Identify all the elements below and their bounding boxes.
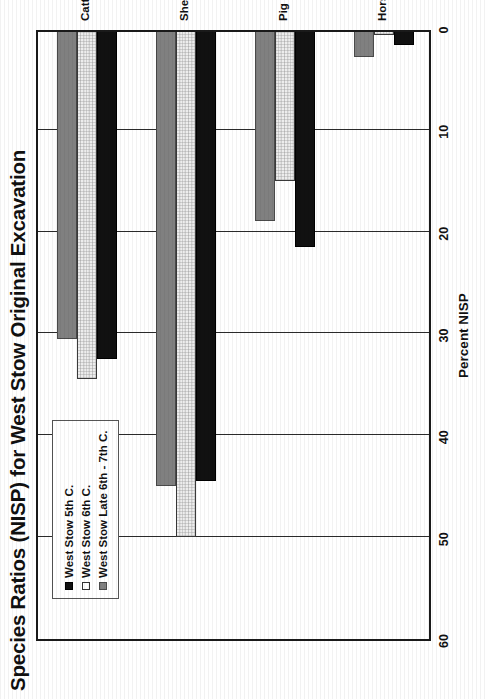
category-label: Horse [376, 0, 388, 21]
tick-label: 40 [437, 430, 451, 444]
tick-label: 0 [437, 27, 451, 34]
chart-legend: West Stow 5th C.West Stow 6th C.West Sto… [52, 420, 119, 599]
bar [275, 30, 295, 181]
category-label: Cattle [79, 0, 91, 21]
bar [394, 30, 414, 45]
outline-white-square-icon [82, 582, 90, 590]
legend-item-label: West Stow 6th C. [80, 485, 92, 578]
bar-group [236, 32, 335, 639]
tick-label: 60 [437, 634, 451, 648]
scanned-page-rotation-wrapper: Species Ratios (NISP) for West Stow Orig… [0, 0, 485, 699]
tick-label: 20 [437, 227, 451, 241]
tick-label: 30 [437, 329, 451, 343]
bar [295, 30, 315, 247]
bar [196, 30, 216, 481]
legend-item: West Stow Late 6th - 7th C. [94, 431, 111, 590]
filled-gray-square-icon [99, 582, 107, 590]
bar [97, 30, 117, 359]
legend-item-label: West Stow Late 6th - 7th C. [97, 431, 109, 578]
legend-item: West Stow 6th C. [77, 431, 94, 590]
bar-group [334, 32, 431, 639]
chart-page: Species Ratios (NISP) for West Stow Orig… [0, 0, 485, 699]
tick-label: 50 [437, 532, 451, 546]
bar [255, 30, 275, 221]
bar-group [137, 32, 236, 639]
category-label: Pig [277, 3, 289, 21]
bar [57, 30, 77, 339]
legend-item: West Stow 5th C. [60, 431, 77, 590]
bar [176, 30, 196, 537]
value-axis-title: Percent NISP [456, 30, 471, 641]
bar [77, 30, 97, 379]
category-label: Sheep / Goat [178, 0, 190, 21]
bar [156, 30, 176, 486]
legend-item-label: West Stow 5th C. [63, 485, 75, 578]
page-title: Species Ratios (NISP) for West Stow Orig… [6, 31, 30, 691]
bar [374, 30, 394, 35]
bar [354, 30, 374, 57]
tick-label: 10 [437, 125, 451, 139]
filled-black-square-icon [65, 582, 73, 590]
